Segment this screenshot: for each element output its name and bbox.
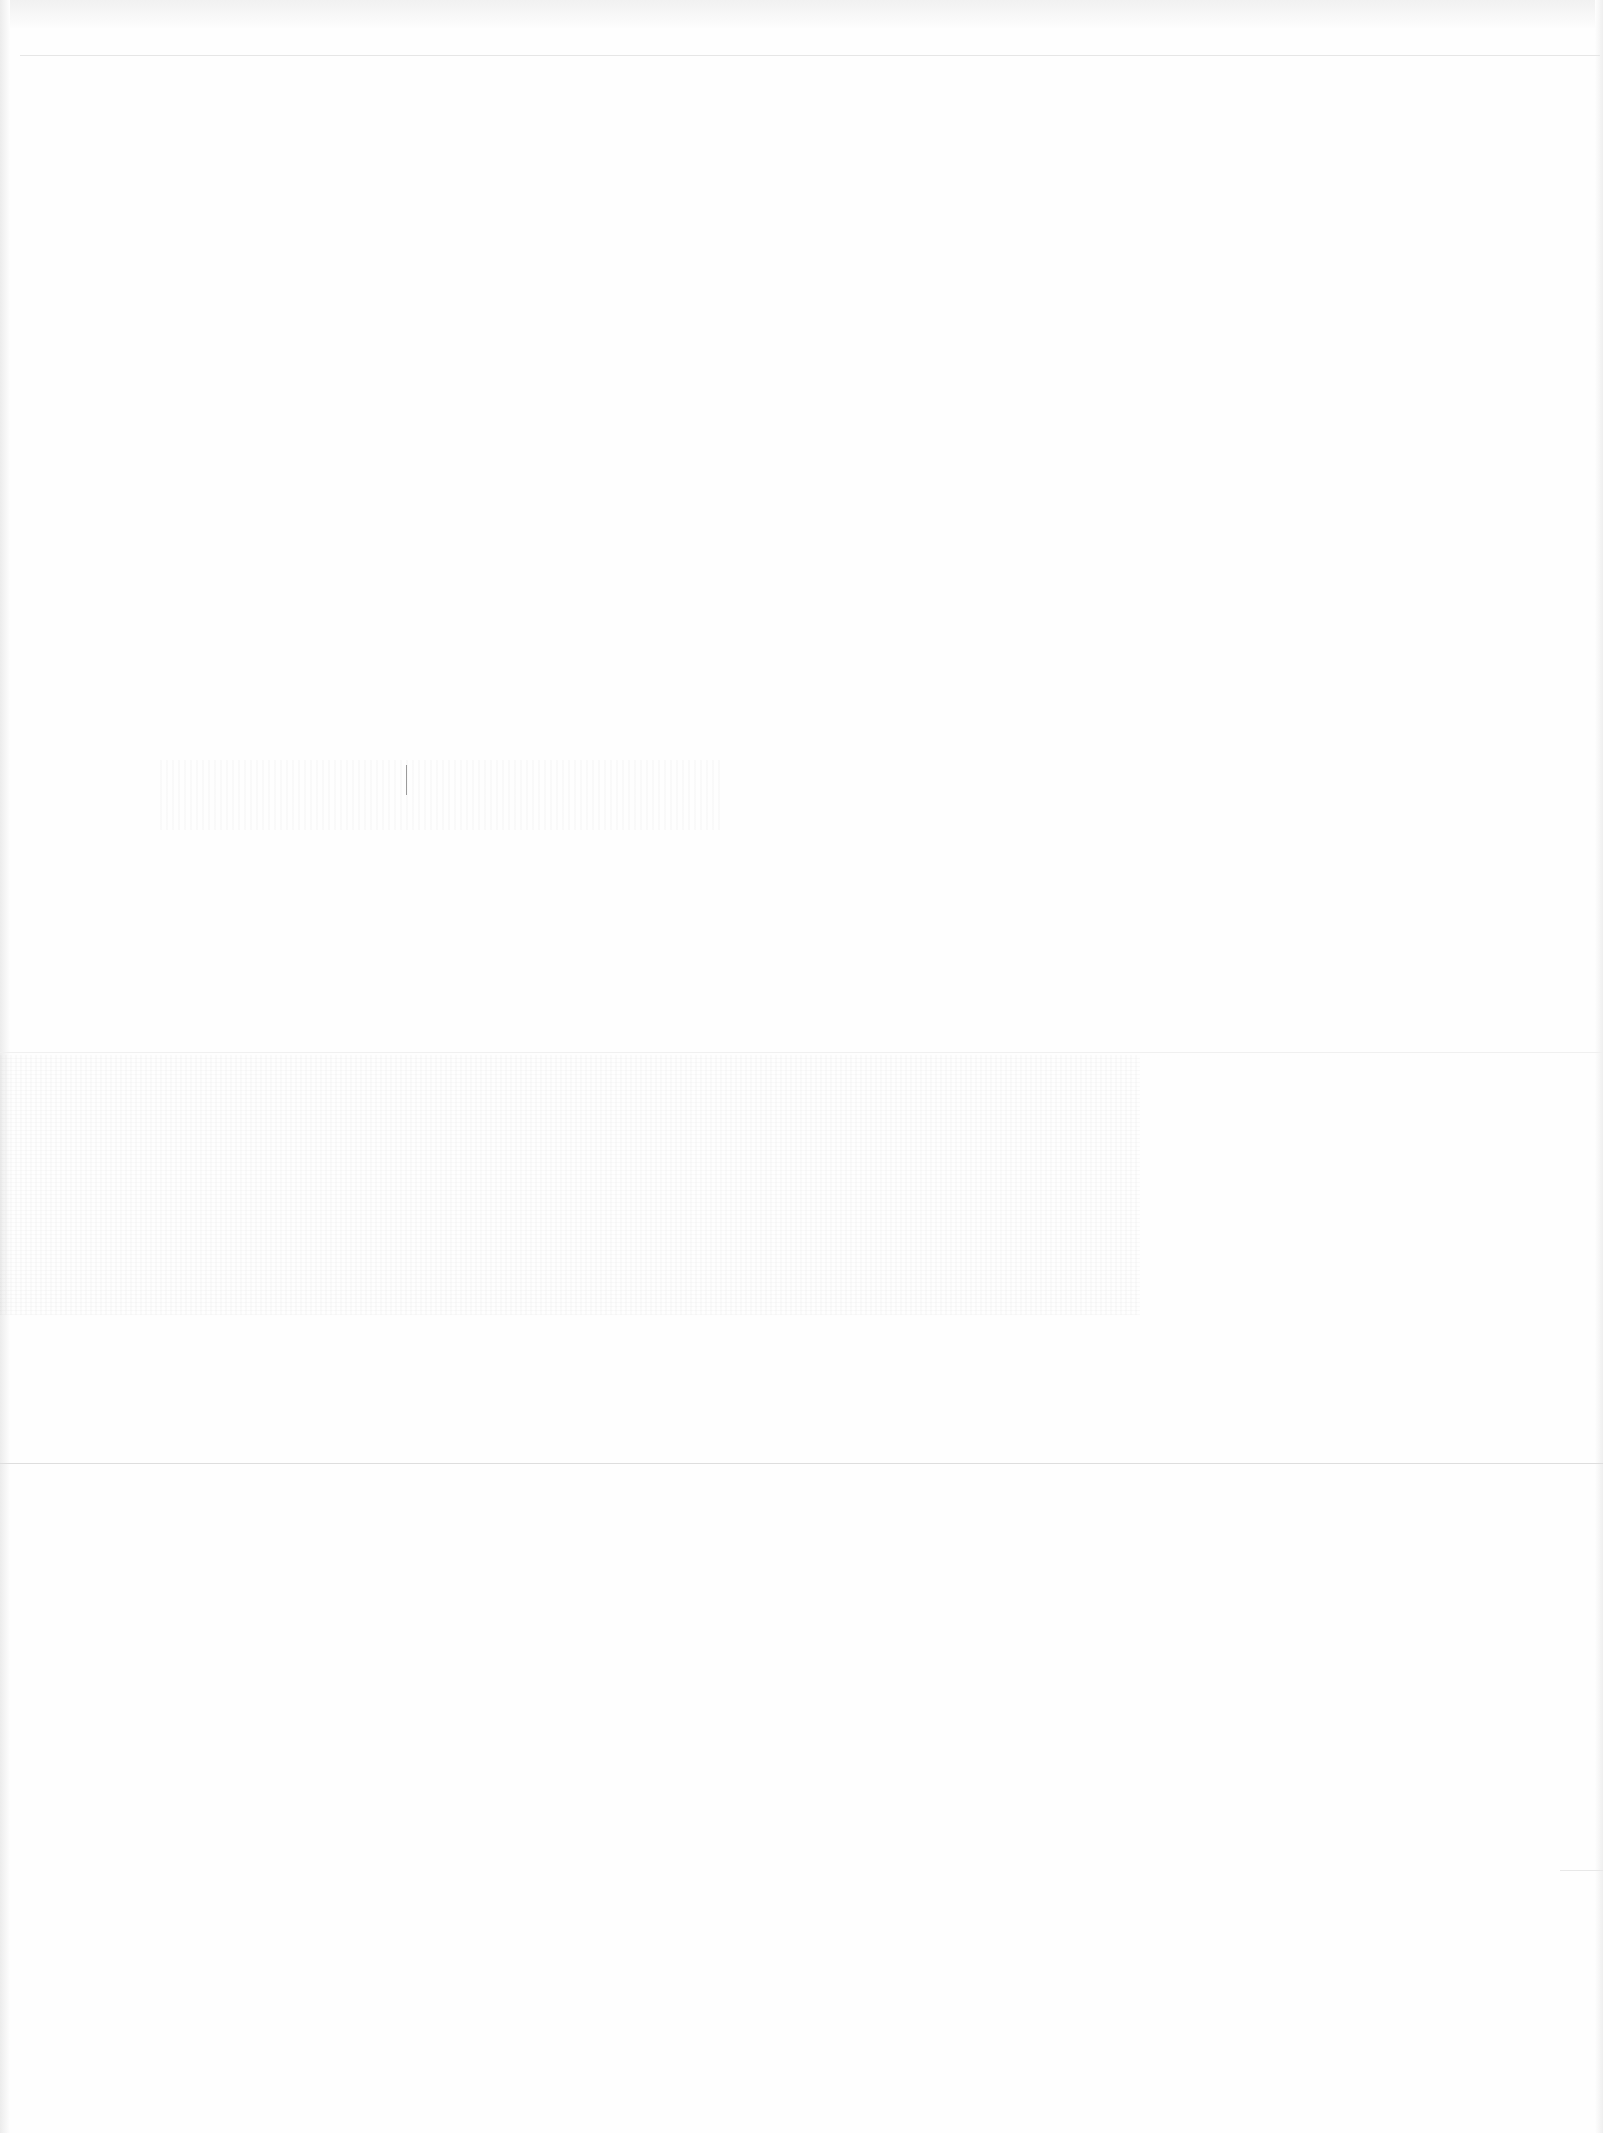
stray-pen-mark — [406, 765, 407, 795]
page-top-edge-shadow — [0, 0, 1603, 28]
horizontal-rule-top — [20, 55, 1600, 56]
scan-noise-band — [0, 1055, 1140, 1315]
horizontal-rule-margin-stub — [1560, 1870, 1603, 1871]
page-right-edge-shadow — [1595, 0, 1603, 2133]
horizontal-rule-middle — [0, 1052, 1603, 1053]
scan-noise-faint — [160, 760, 720, 830]
horizontal-rule-lower — [0, 1463, 1603, 1464]
